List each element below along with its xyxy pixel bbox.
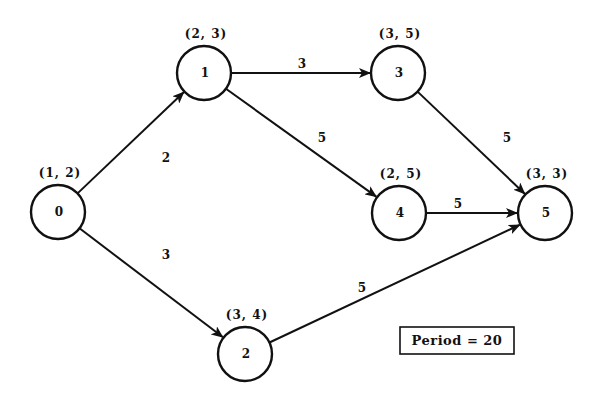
edge-1-4 bbox=[226, 89, 376, 197]
node-id-label: 4 bbox=[396, 206, 404, 220]
node-0: 0(1, 2) bbox=[31, 166, 85, 240]
edge-weight-label: 5 bbox=[503, 131, 511, 145]
node-2: 2(3, 4) bbox=[218, 308, 272, 382]
edge-weight-label: 5 bbox=[318, 131, 326, 145]
node-1: 1(2, 3) bbox=[177, 27, 231, 101]
edge-2-5 bbox=[269, 225, 519, 343]
node-pair-label: (2, 5) bbox=[380, 167, 422, 181]
node-id-label: 1 bbox=[201, 66, 209, 80]
node-pair-label: (3, 3) bbox=[526, 167, 568, 181]
node-id-label: 0 bbox=[55, 205, 63, 219]
node-id-label: 5 bbox=[542, 206, 550, 220]
edge-weight-label: 3 bbox=[298, 57, 306, 71]
node-pair-label: (3, 4) bbox=[226, 308, 268, 322]
node-5: 5(3, 3) bbox=[518, 167, 572, 241]
node-id-label: 2 bbox=[242, 347, 250, 361]
edge-weight-label: 2 bbox=[162, 151, 170, 165]
node-pair-label: (3, 5) bbox=[379, 27, 421, 41]
network-diagram: 2335555 0(1, 2)1(2, 3)2(3, 4)3(3, 5)4(2,… bbox=[0, 0, 604, 402]
node-pair-label: (2, 3) bbox=[185, 27, 227, 41]
edge-0-2 bbox=[80, 228, 223, 337]
node-3: 3(3, 5) bbox=[371, 27, 425, 101]
node-id-label: 3 bbox=[395, 66, 403, 80]
edge-weight-label: 3 bbox=[162, 248, 170, 262]
edge-weight-label: 5 bbox=[358, 281, 366, 295]
node-pair-label: (1, 2) bbox=[39, 166, 81, 180]
node-4: 4(2, 5) bbox=[372, 167, 426, 241]
period-label: Period = 20 bbox=[412, 333, 503, 348]
edge-0-1 bbox=[78, 92, 184, 193]
edge-weight-label: 5 bbox=[454, 197, 462, 211]
period-box: Period = 20 bbox=[400, 327, 514, 354]
